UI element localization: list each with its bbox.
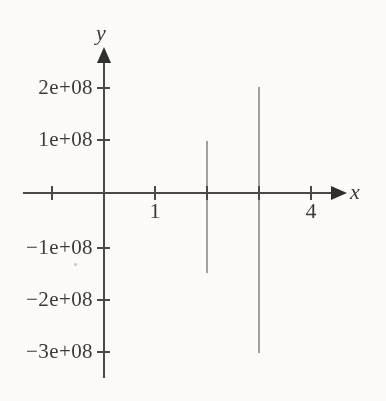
x-tick-2 bbox=[206, 186, 208, 200]
y-tick-minus2e08 bbox=[97, 299, 110, 301]
curve-spike-x3 bbox=[258, 87, 260, 353]
y-tick-1e08 bbox=[97, 139, 110, 141]
x-axis-line bbox=[23, 192, 333, 194]
y-tick-2e08 bbox=[97, 87, 110, 89]
y-tick-label-minus1e08: −1e+08 bbox=[12, 235, 93, 259]
x-tick-label-1: 1 bbox=[145, 200, 165, 222]
x-axis-arrowhead-icon bbox=[331, 186, 347, 200]
y-axis-label: y bbox=[96, 22, 106, 44]
y-axis-arrowhead-icon bbox=[97, 47, 111, 63]
x-tick-3 bbox=[258, 186, 260, 200]
x-axis-label: x bbox=[350, 181, 360, 203]
y-tick-label-minus2e08: −2e+08 bbox=[12, 287, 93, 311]
scan-speck bbox=[74, 263, 77, 266]
plot-figure: y x 1 4 2e+08 1e+08 −1e+08 −2e+08 −3e+08 bbox=[0, 0, 386, 401]
curve-spike-x2 bbox=[206, 141, 208, 273]
x-tick-label-4: 4 bbox=[301, 200, 321, 222]
y-tick-minus1e08 bbox=[97, 247, 110, 249]
y-tick-minus3e08 bbox=[97, 351, 110, 353]
y-axis-line bbox=[103, 56, 105, 378]
y-tick-label-1e08: 1e+08 bbox=[12, 127, 93, 151]
y-tick-label-2e08: 2e+08 bbox=[12, 75, 93, 99]
x-tick-minus1 bbox=[51, 186, 53, 200]
y-tick-label-minus3e08: −3e+08 bbox=[12, 339, 93, 363]
